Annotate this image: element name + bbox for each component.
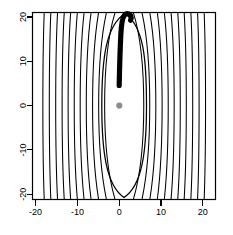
y-axis-tick-labels: 20 10 0 -10 -20 xyxy=(18,12,28,201)
chart-figure: -20 -10 0 10 20 20 10 0 -10 -20 xyxy=(0,0,233,235)
x-tick-label: 10 xyxy=(156,207,166,217)
fixed-point-marker xyxy=(116,103,122,109)
x-tick-label: -10 xyxy=(71,207,84,217)
plot-canvas: -20 -10 0 10 20 20 10 0 -10 -20 xyxy=(0,0,233,235)
y-tick-label: 10 xyxy=(18,56,28,66)
plot-frame xyxy=(33,13,216,200)
x-tick-label: 20 xyxy=(198,207,208,217)
x-tick-label: -20 xyxy=(29,207,42,217)
y-tick-label: 20 xyxy=(18,12,28,22)
x-axis-ticks xyxy=(36,200,203,206)
x-axis-tick-labels: -20 -10 0 10 20 xyxy=(29,207,208,217)
x-tick-label: 0 xyxy=(117,207,122,217)
y-tick-label: 0 xyxy=(18,103,28,108)
y-tick-label: -20 xyxy=(18,188,28,201)
y-tick-label: -10 xyxy=(18,143,28,156)
